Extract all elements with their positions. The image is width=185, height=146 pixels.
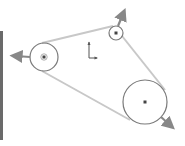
direction-arrow-icon[interactable] (161, 117, 170, 125)
pulley-left-center-point[interactable] (43, 56, 46, 59)
direction-arrow-icon[interactable] (16, 56, 30, 57)
belt-segment-right[interactable] (122, 36, 165, 90)
origin-axes-icon (88, 42, 99, 60)
pulley-left[interactable] (16, 43, 58, 71)
pulley-bottom-center-point[interactable] (144, 101, 147, 104)
sketch-canvas[interactable] (0, 0, 185, 146)
pulley-top-center-point[interactable] (115, 32, 118, 35)
belt-segment-top[interactable] (42, 26, 113, 43)
belt-segment-bottom[interactable] (42, 71, 130, 120)
belt[interactable] (42, 26, 165, 120)
direction-arrow-icon[interactable] (118, 14, 123, 26)
